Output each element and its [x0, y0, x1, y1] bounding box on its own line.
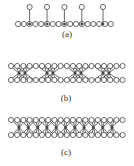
structure-c	[8, 117, 125, 137]
panel-label-a: (a)	[52, 29, 82, 39]
panel-label-c: (c)	[51, 147, 81, 157]
molecular-structure-diagram	[0, 0, 134, 166]
structure-b	[8, 63, 125, 82]
structure-a	[15, 4, 113, 26]
panel-label-b: (b)	[51, 93, 81, 103]
